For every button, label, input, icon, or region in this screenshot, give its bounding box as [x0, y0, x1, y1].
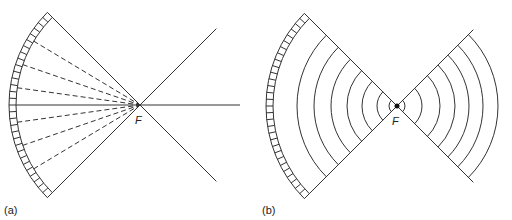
mirror-tick [291, 179, 297, 183]
mirror-tick [270, 138, 277, 140]
mirror-tick [280, 162, 286, 165]
mirror-tick [38, 23, 43, 27]
dashed-ray [17, 105, 140, 122]
mirror-tick [47, 193, 52, 198]
boundary-ray [309, 30, 473, 194]
mirror-tick [10, 91, 17, 92]
panel-a [9, 12, 240, 197]
mirror-tick [30, 34, 36, 38]
diverging-wavefront [448, 55, 469, 157]
mirror-tick [269, 132, 276, 133]
panel-b-label: (b) [262, 204, 275, 216]
mirror-tick [13, 71, 20, 73]
mirror-tick [11, 85, 18, 86]
mirror-tick [284, 41, 290, 45]
mirror-tick [20, 155, 26, 158]
converging-wavefront [377, 92, 383, 120]
panel-b [266, 13, 498, 198]
dashed-ray [23, 65, 140, 105]
mirror-tick [268, 125, 275, 126]
dashed-ray [34, 105, 140, 169]
mirror-tick [284, 168, 290, 172]
mirror-tick [15, 143, 22, 145]
mirror-tick [272, 66, 279, 68]
mirror-tick [300, 18, 305, 23]
converging-wavefront [362, 81, 372, 130]
mirror-tick [34, 178, 40, 182]
converging-wavefront [347, 71, 362, 142]
converging-wavefront [297, 35, 326, 176]
diverging-wavefront [427, 76, 440, 137]
focus-point-dot [395, 104, 400, 109]
mirror-tick [13, 137, 20, 139]
dashed-ray [23, 105, 140, 145]
mirror-tick [277, 156, 283, 159]
mirror-tick [272, 144, 279, 146]
mirror-tick [269, 79, 276, 80]
mirror-tick [304, 13, 309, 18]
mirror-tick [12, 78, 19, 79]
mirror-tick [295, 184, 300, 188]
mirror-tick [295, 24, 300, 28]
mirror-tick [15, 65, 22, 67]
converging-wavefront [314, 47, 338, 164]
mirror-tick [38, 183, 43, 187]
panel-a-label: (a) [4, 204, 17, 216]
mirror-tick [10, 118, 17, 119]
mirror-tick [267, 92, 274, 93]
dashed-ray [34, 41, 140, 105]
mirror-tick [267, 119, 274, 120]
focus-label-b: F [392, 115, 400, 127]
mirror-tick [287, 174, 293, 178]
focus-label-a: F [135, 114, 143, 126]
diverging-wavefront [438, 65, 455, 147]
diverging-wavefront [458, 45, 483, 167]
mirror-tick [43, 17, 48, 22]
converging-wavefront [389, 100, 391, 111]
diverging-wavefront [415, 88, 422, 123]
mirror-tick [11, 124, 18, 125]
mirror-tick [27, 167, 33, 171]
mirror-tick [34, 28, 40, 32]
mirror-tick [275, 150, 282, 153]
mirror-tick [20, 52, 26, 55]
mirror-tick [277, 53, 283, 56]
mirror-tick [304, 194, 309, 199]
mirror-tick [23, 161, 29, 164]
boundary-ray [52, 29, 216, 193]
mirror-tick [300, 189, 305, 194]
mirror-tick [18, 149, 25, 152]
dashed-ray [17, 88, 140, 105]
diverging-wavefront [403, 100, 405, 111]
mirror-tick [12, 131, 19, 132]
mirror-tick [280, 47, 286, 50]
wave-focusing-diagram: (a) (b) F F [0, 0, 512, 220]
mirror-tick [18, 58, 25, 61]
mirror-tick [43, 188, 48, 193]
mirror-tick [23, 46, 29, 49]
mirror-tick [268, 86, 275, 87]
boundary-ray [52, 17, 216, 181]
mirror-tick [30, 173, 36, 177]
mirror-tick [275, 59, 282, 62]
mirror-tick [291, 29, 297, 33]
mirror-tick [47, 12, 52, 17]
mirror-tick [27, 40, 33, 44]
mirror-inner-arc [273, 18, 309, 193]
mirror-tick [287, 35, 293, 39]
mirror-tick [270, 72, 277, 74]
